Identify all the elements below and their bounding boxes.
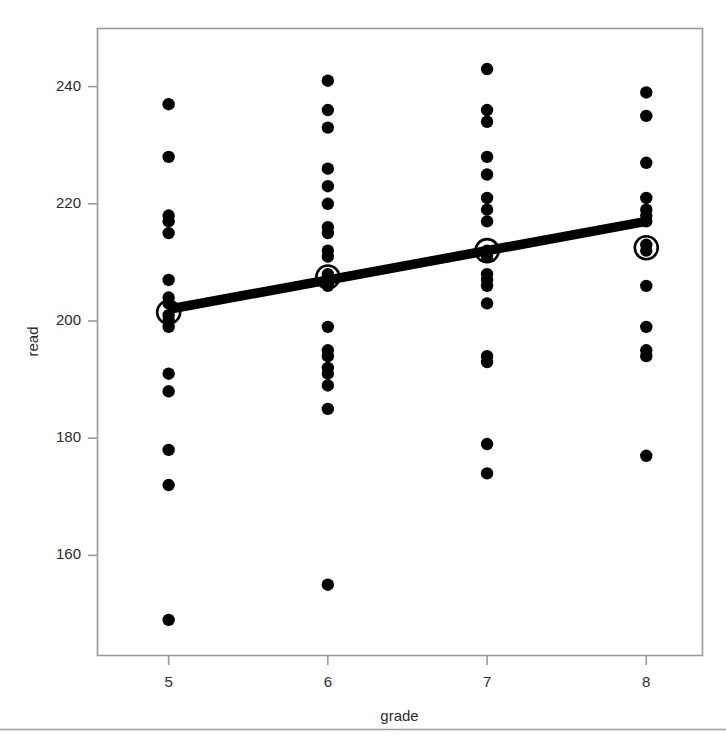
data-point	[481, 215, 493, 227]
data-point	[322, 180, 334, 192]
data-point	[322, 162, 334, 174]
data-point	[640, 157, 652, 169]
data-point	[322, 350, 334, 362]
data-point	[162, 368, 174, 380]
data-point	[322, 368, 334, 380]
data-point	[481, 467, 493, 479]
data-point	[162, 274, 174, 286]
data-point	[162, 444, 174, 456]
data-point	[322, 198, 334, 210]
data-point	[481, 297, 493, 309]
data-point	[322, 379, 334, 391]
data-point	[322, 121, 334, 133]
data-point	[640, 86, 652, 98]
data-point	[640, 110, 652, 122]
data-point	[162, 479, 174, 491]
y-tick-label: 240	[56, 77, 81, 94]
data-point	[481, 168, 493, 180]
scatter-plot-figure: 1601802002202405678graderead	[0, 0, 726, 742]
data-point	[162, 385, 174, 397]
data-point	[322, 403, 334, 415]
y-axis-title: read	[24, 326, 41, 356]
data-point	[322, 104, 334, 116]
y-tick-label: 180	[56, 428, 81, 445]
data-point	[481, 63, 493, 75]
data-point	[640, 321, 652, 333]
data-point	[322, 250, 334, 262]
data-point	[481, 151, 493, 163]
data-point	[481, 280, 493, 292]
data-point	[481, 203, 493, 215]
data-point	[162, 215, 174, 227]
data-point	[481, 116, 493, 128]
data-point	[481, 356, 493, 368]
plot-background	[97, 28, 702, 655]
y-tick-label: 220	[56, 194, 81, 211]
data-point	[322, 75, 334, 87]
data-point	[322, 227, 334, 239]
data-point	[162, 614, 174, 626]
x-axis-title: grade	[380, 707, 418, 724]
y-tick-label: 200	[56, 311, 81, 328]
data-point	[640, 244, 652, 256]
y-tick-label: 160	[56, 545, 81, 562]
data-point	[162, 227, 174, 239]
data-point	[481, 192, 493, 204]
chart-canvas: 1601802002202405678graderead	[0, 0, 726, 742]
data-point	[640, 450, 652, 462]
data-point	[322, 578, 334, 590]
x-tick-label: 6	[324, 673, 332, 690]
x-tick-label: 7	[483, 673, 491, 690]
data-point	[162, 151, 174, 163]
x-tick-label: 5	[164, 673, 172, 690]
data-point	[640, 350, 652, 362]
data-point	[481, 104, 493, 116]
x-tick-label: 8	[642, 673, 650, 690]
data-point	[640, 280, 652, 292]
data-point	[322, 321, 334, 333]
data-point	[640, 192, 652, 204]
x-axis: 5678	[164, 655, 650, 690]
y-axis: 160180200220240	[56, 77, 97, 563]
data-point	[162, 98, 174, 110]
data-point	[481, 438, 493, 450]
